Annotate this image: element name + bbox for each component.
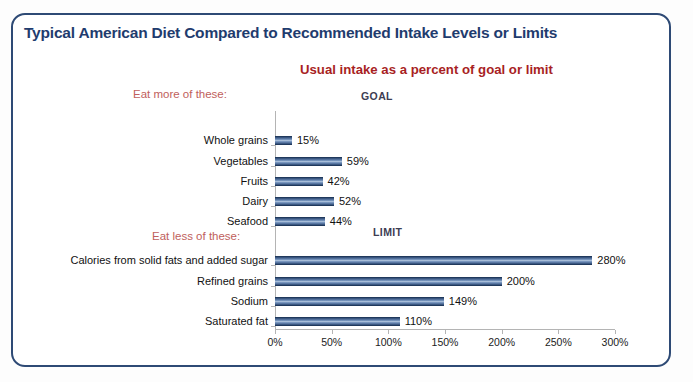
bar <box>275 157 342 166</box>
bar <box>275 317 400 326</box>
x-axis-tick-label: 100% <box>375 336 402 348</box>
category-label-text: Seafood <box>227 215 268 227</box>
category-label-text: Refined grains <box>197 275 268 287</box>
category-label: Calories from solid fats and added sugar <box>20 254 268 266</box>
x-axis-tick-label: 50% <box>321 336 342 348</box>
y-axis-tick <box>271 326 275 327</box>
category-label: Seafood <box>20 215 268 227</box>
y-axis-tick <box>271 166 275 167</box>
bar-value-label: 42% <box>328 175 350 187</box>
bar <box>275 177 323 186</box>
bar <box>275 197 334 206</box>
x-axis-tick-label: 300% <box>602 336 629 348</box>
category-label-text: Calories from solid fats and added sugar <box>71 254 269 266</box>
x-axis-tick <box>275 330 276 334</box>
x-axis-tick <box>388 330 389 334</box>
category-label-text: Vegetables <box>214 155 268 167</box>
category-label: Sodium <box>20 295 268 307</box>
bar-value-label: 15% <box>297 134 319 146</box>
x-axis-tick <box>615 330 616 334</box>
category-label-text: Saturated fat <box>205 315 268 327</box>
x-axis-tick <box>502 330 503 334</box>
category-label-text: Sodium <box>231 295 268 307</box>
y-axis-tick <box>271 145 275 146</box>
x-axis-tick-label: 150% <box>432 336 459 348</box>
y-axis-tick <box>271 186 275 187</box>
plot-area: 0%50%100%150%200%250%300%Whole grains15%… <box>0 0 693 382</box>
category-label-text: Whole grains <box>204 134 268 146</box>
category-label: Refined grains <box>20 275 268 287</box>
y-axis-tick <box>271 265 275 266</box>
bar-value-label: 59% <box>347 155 369 167</box>
category-label: Vegetables <box>20 155 268 167</box>
category-label-text: Fruits <box>241 175 269 187</box>
x-axis-tick <box>558 330 559 334</box>
bar-value-label: 52% <box>339 195 361 207</box>
x-axis-tick <box>445 330 446 334</box>
y-axis-tick <box>271 306 275 307</box>
x-axis-tick-label: 0% <box>267 336 282 348</box>
category-label: Saturated fat <box>20 315 268 327</box>
y-axis-tick <box>271 226 275 227</box>
bar-value-label: 110% <box>405 315 432 327</box>
bar-value-label: 200% <box>507 275 535 287</box>
bar-value-label: 44% <box>330 215 352 227</box>
chart-figure: Typical American Diet Compared to Recomm… <box>0 0 693 382</box>
category-label: Dairy <box>20 195 268 207</box>
x-axis-tick <box>332 330 333 334</box>
bar <box>275 217 325 226</box>
bar <box>275 136 292 145</box>
bar <box>275 277 502 286</box>
x-axis-tick-label: 250% <box>545 336 572 348</box>
bar <box>275 256 592 265</box>
bar <box>275 297 444 306</box>
bar-value-label: 149% <box>449 295 477 307</box>
bar-value-label: 280% <box>597 254 625 266</box>
y-axis-tick <box>271 286 275 287</box>
x-axis-tick-label: 200% <box>488 336 515 348</box>
category-label: Whole grains <box>20 134 268 146</box>
category-label-text: Dairy <box>242 195 268 207</box>
y-axis-tick <box>271 206 275 207</box>
category-label: Fruits <box>20 175 268 187</box>
